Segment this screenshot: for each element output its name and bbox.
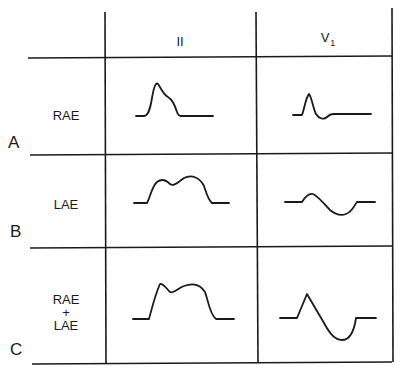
- column-header-lead-v1: V1: [308, 30, 348, 45]
- waveform-b-ii: [134, 176, 229, 203]
- row-label-rae-lae: RAE + LAE: [42, 293, 90, 332]
- row-letter-c: C: [10, 340, 22, 360]
- row-label-rae: RAE: [42, 108, 90, 123]
- row-letter-a: A: [8, 133, 19, 153]
- row-letter-b: B: [10, 222, 21, 242]
- waveform-c-v1: [280, 294, 376, 340]
- waveform-c-ii: [133, 284, 234, 319]
- waveform-b-v1: [285, 194, 375, 215]
- row-label-text: RAE: [53, 108, 80, 123]
- row-label-lae: LAE: [42, 197, 90, 212]
- row-label-text: LAE: [42, 319, 90, 332]
- column-header-subscript: 1: [330, 38, 335, 48]
- waveform-a-v1: [293, 94, 371, 119]
- column-header-lead-ii: II: [160, 34, 200, 49]
- waveform-a-ii: [136, 84, 213, 116]
- column-header-label: V: [321, 30, 330, 45]
- column-header-label: II: [176, 34, 183, 49]
- row-label-text: LAE: [54, 197, 79, 212]
